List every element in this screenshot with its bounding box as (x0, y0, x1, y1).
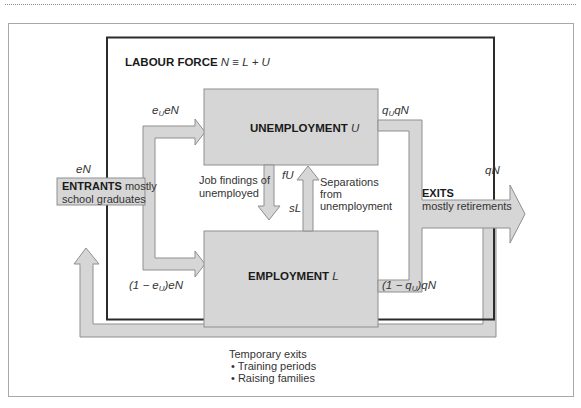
entrants-flow-label: eN (76, 163, 91, 176)
flow-from-employment-label: (1 − qU)qN (382, 279, 436, 295)
employment-symbol: L (332, 270, 338, 282)
job-findings-text-2: unemployed (199, 187, 259, 200)
temporary-exits-item: • Raising families (231, 372, 315, 385)
flow-part: (1 − q (382, 279, 412, 291)
flow-to-employment-label: (1 − eU)eN (129, 279, 183, 295)
separations-rate: sL (289, 202, 301, 215)
flow-to-unemployment-label: eUeN (152, 104, 179, 120)
entrants-desc-1: mostly (125, 180, 157, 192)
exits-title: EXITS (422, 187, 454, 200)
employment-title: EMPLOYMENT (248, 270, 329, 282)
exits-flow-label: qN (485, 164, 500, 177)
flow-part: qN (394, 104, 409, 116)
labour-force-title-text: LABOUR FORCE (125, 56, 218, 68)
flow-part: )qN (418, 279, 437, 291)
job-findings-text-1: Job findings of (199, 174, 270, 187)
separations-text-3: unemployment (320, 200, 392, 213)
labour-force-formula: N ≡ L + U (221, 56, 270, 68)
employment-label: EMPLOYMENT L (248, 270, 339, 283)
unemployment-label: UNEMPLOYMENT U (250, 122, 359, 135)
entrants-title: ENTRANTS (62, 180, 122, 192)
flow-part: (1 − e (129, 279, 159, 291)
entrants-desc-2: school graduates (62, 193, 146, 206)
entrants-label: ENTRANTS mostly (62, 180, 157, 193)
flow-part: eN (164, 104, 179, 116)
flow-part: )eN (165, 279, 184, 291)
exits-title-text: EXITS (422, 187, 454, 199)
unemployment-title: UNEMPLOYMENT (250, 122, 348, 134)
flow-from-unemployment-label: qUqN (382, 104, 409, 120)
job-findings-rate: fU (282, 169, 294, 182)
labour-force-title: LABOUR FORCE N ≡ L + U (125, 56, 270, 69)
exits-desc: mostly retirements (422, 200, 512, 213)
unemployment-symbol: U (351, 122, 359, 134)
